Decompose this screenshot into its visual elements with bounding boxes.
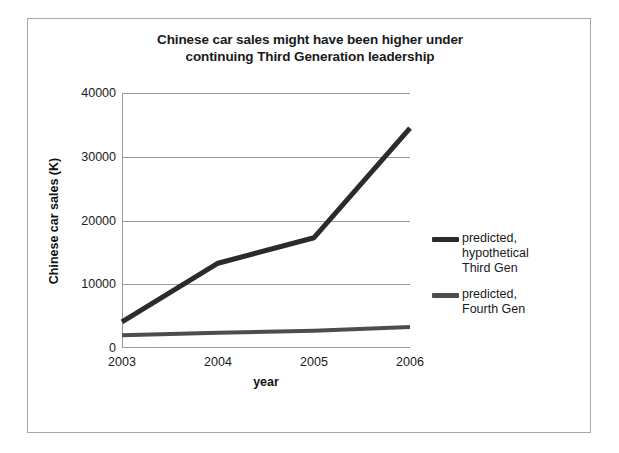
x-axis-tick-label: 2005: [300, 355, 328, 369]
chart-legend: predicted, hypothetical Third Genpredict…: [432, 231, 582, 328]
plot-area: 010000200003000040000 2003200420052006: [122, 93, 410, 348]
y-axis-tick-label: 40000: [81, 86, 116, 100]
x-axis-title: year: [122, 375, 410, 389]
x-axis-tick-label: 2006: [396, 355, 424, 369]
legend-swatch: [432, 293, 459, 298]
chart-title-line-1: Chinese car sales might have been higher…: [68, 31, 552, 48]
series-line: [122, 128, 410, 322]
y-axis-tick-label: 30000: [81, 150, 116, 164]
y-axis-tick-label: 0: [109, 341, 116, 355]
series-line: [122, 327, 410, 335]
legend-entry[interactable]: predicted, hypothetical Third Gen: [432, 231, 582, 276]
legend-swatch: [432, 237, 459, 242]
series-lines: [122, 93, 410, 348]
y-axis-title: Chinese car sales (K): [45, 93, 63, 348]
y-axis-tick-label: 10000: [81, 277, 116, 291]
x-axis-tick-label: 2004: [204, 355, 232, 369]
y-axis-title-text: Chinese car sales (K): [47, 157, 61, 283]
y-axis-tick-label: 20000: [81, 214, 116, 228]
legend-entry[interactable]: predicted, Fourth Gen: [432, 287, 582, 317]
legend-label: predicted, hypothetical Third Gen: [462, 231, 529, 276]
chart-title-line-2: continuing Third Generation leadership: [68, 48, 552, 65]
chart-title: Chinese car sales might have been higher…: [68, 31, 552, 66]
chart-figure: Chinese car sales might have been higher…: [27, 18, 591, 433]
x-axis-tick-label: 2003: [108, 355, 136, 369]
legend-label: predicted, Fourth Gen: [462, 287, 525, 317]
